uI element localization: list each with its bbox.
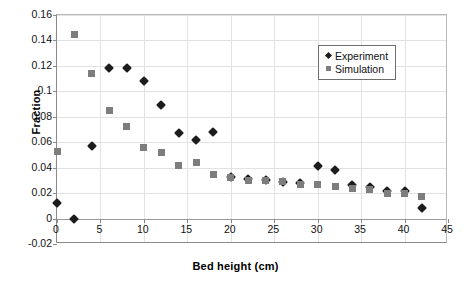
x-axis-tick-label: 0 [41,224,71,234]
legend-label: Simulation [335,63,384,75]
square-marker-icon [324,66,333,71]
x-axis-tick-label: 10 [128,224,158,234]
x-axis-tick-label: 20 [215,224,245,234]
legend-entry: Experiment [324,49,388,62]
x-axis-tick-label: 45 [432,224,462,234]
chart-legend: ExperimentSimulation [318,45,396,80]
y-axis-title: Fraction [30,52,42,172]
x-axis-tick-label: 25 [258,224,288,234]
x-axis-tick-label: 15 [171,224,201,234]
legend-label: Experiment [335,50,388,62]
legend-entry: Simulation [324,62,388,75]
x-axis-tick-label: 40 [389,224,419,234]
scatter-chart: -0.0200.020.040.060.080.10.120.140.16 05… [0,0,471,283]
x-axis-tick-label: 30 [302,224,332,234]
diamond-marker-icon [324,53,333,58]
x-axis-tick-labels: 051015202530354045 [0,0,471,283]
x-axis-tick-label: 35 [345,224,375,234]
x-axis-tick-label: 5 [84,224,114,234]
x-axis-title: Bed height (cm) [0,260,471,272]
